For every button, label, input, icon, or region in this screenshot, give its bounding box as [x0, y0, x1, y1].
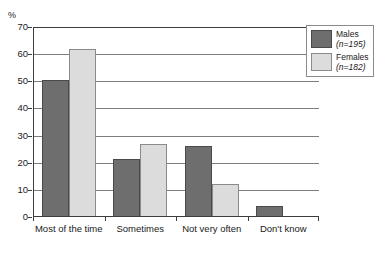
y-tick-mark-20: [28, 163, 32, 164]
x-axis-ticks: [33, 217, 319, 222]
plot-area: [33, 27, 319, 217]
x-label-1: Sometimes: [116, 223, 164, 235]
y-tick-mark-70: [28, 27, 32, 28]
y-tick-label-50: 50: [17, 76, 28, 86]
y-tick-mark-0: [28, 217, 32, 218]
x-label-0: Most of the time: [35, 223, 103, 235]
legend-swatch-males: [311, 30, 332, 48]
x-tick-0: [33, 217, 34, 221]
legend-label-males: Males(n=195): [336, 30, 366, 49]
x-tick-1: [105, 217, 106, 221]
y-tick-mark-60: [28, 54, 32, 55]
y-axis-tick-labels: 010203040506070: [0, 27, 28, 217]
legend-series-count: (n=182): [336, 63, 369, 73]
x-tick-2: [176, 217, 177, 221]
y-tick-mark-30: [28, 136, 32, 137]
x-tick-4: [318, 217, 319, 221]
axis-lines: [33, 27, 319, 217]
legend-series-count: (n=195): [336, 40, 366, 50]
legend-swatch-females: [311, 53, 332, 71]
chart-legend: Males(n=195)Females(n=182): [306, 25, 374, 77]
legend-label-females: Females(n=182): [336, 53, 369, 72]
y-tick-label-30: 30: [17, 131, 28, 141]
y-tick-label-40: 40: [17, 103, 28, 113]
legend-item-females: Females(n=182): [311, 53, 369, 72]
y-tick-mark-40: [28, 108, 32, 109]
x-axis-tick-labels: Most of the timeSometimesNot very oftenD…: [33, 223, 319, 239]
legend-item-males: Males(n=195): [311, 30, 369, 49]
x-label-3: Don't know: [260, 223, 307, 235]
y-tick-mark-10: [28, 190, 32, 191]
y-tick-mark-50: [28, 81, 32, 82]
y-tick-label-10: 10: [17, 185, 28, 195]
x-tick-3: [248, 217, 249, 221]
y-tick-label-20: 20: [17, 158, 28, 168]
x-label-2: Not very often: [182, 223, 241, 235]
y-tick-label-70: 70: [17, 22, 28, 32]
y-axis-unit-label: %: [8, 10, 16, 20]
y-tick-label-60: 60: [17, 49, 28, 59]
